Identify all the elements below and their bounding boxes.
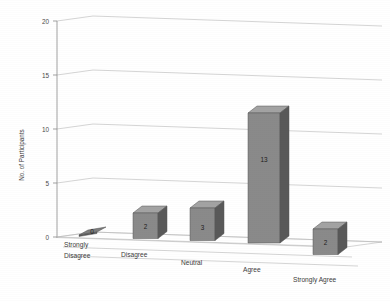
bar-chart-3d: 20 15 10 5 0 No. of Participants 0	[0, 0, 390, 301]
bar-agree[interactable]: 13	[248, 106, 289, 243]
bar-value-disagree: 2	[144, 223, 148, 230]
bar-value-strongly-agree: 2	[324, 239, 328, 246]
bar-value-agree: 13	[260, 156, 268, 163]
bar-value-neutral: 3	[201, 224, 205, 231]
cat-label-strongly-disagree-line1: Strongly	[64, 241, 89, 249]
bar-strongly-agree[interactable]: 2	[313, 222, 347, 255]
y-axis	[53, 21, 57, 238]
cat-label-strongly-agree: Strongly Agree	[293, 276, 337, 284]
chart-svg: 20 15 10 5 0 No. of Participants 0	[0, 0, 390, 301]
y-tick-20: 20	[42, 18, 50, 25]
bar-value-strongly-disagree: 0	[90, 228, 94, 235]
bar-neutral[interactable]: 3	[190, 201, 224, 241]
cat-label-strongly-disagree-line2: Disagree	[64, 252, 91, 260]
y-tick-0: 0	[45, 234, 49, 241]
cat-label-neutral: Neutral	[181, 259, 203, 266]
y-tick-5: 5	[45, 180, 49, 187]
y-tick-labels: 20 15 10 5 0	[42, 18, 50, 241]
bar-disagree[interactable]: 2	[133, 206, 167, 239]
cat-label-agree: Agree	[243, 266, 261, 274]
x-axis-category-labels: Strongly Disagree Disagree Neutral Agree…	[64, 241, 337, 284]
bar-strongly-disagree[interactable]: 0	[79, 227, 106, 237]
y-tick-10: 10	[42, 126, 50, 133]
y-tick-15: 15	[42, 72, 50, 79]
cat-label-disagree: Disagree	[121, 251, 148, 259]
y-axis-title: No. of Participants	[18, 129, 26, 180]
